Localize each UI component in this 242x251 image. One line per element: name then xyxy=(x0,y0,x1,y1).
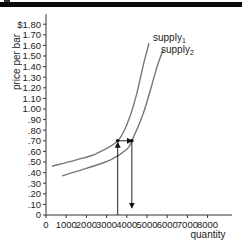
supply2-label: supply2 xyxy=(161,44,194,56)
y-tick-label: .30 xyxy=(28,178,41,189)
x-tick-label: 2000 xyxy=(76,219,97,230)
y-tick-label: 1.10 xyxy=(23,93,42,104)
y-tick-label: .80 xyxy=(28,125,41,136)
supply-curves xyxy=(52,43,163,176)
supply1-label: supply1 xyxy=(153,32,186,44)
x-tick-label: 5000 xyxy=(136,219,157,230)
y-axis-title: price per bar xyxy=(11,33,22,90)
point-marker xyxy=(116,139,120,143)
point-marker xyxy=(130,139,134,143)
y-tick-label: .40 xyxy=(28,167,41,178)
axes: 0.10.20.30.40.50.60.70.80.901.001.101.20… xyxy=(17,14,232,230)
y-tick-label: .10 xyxy=(28,199,41,210)
x-axis-title: quantity xyxy=(190,229,225,240)
y-tick-label: 1.40 xyxy=(23,61,42,72)
supply1-curve xyxy=(52,43,149,166)
y-tick-label: $1.80 xyxy=(17,19,41,30)
y-tick-label: 1.50 xyxy=(23,50,42,61)
supply-chart: 0.10.20.30.40.50.60.70.80.901.001.101.20… xyxy=(0,0,242,251)
y-tick-label: 1.70 xyxy=(23,29,42,40)
y-tick-label: 1.30 xyxy=(23,72,42,83)
x-tick-label: 6000 xyxy=(157,219,178,230)
x-tick-label: 0 xyxy=(43,219,48,230)
y-tick-label: .90 xyxy=(28,114,41,125)
y-tick-label: 1.60 xyxy=(23,40,42,51)
x-tick-label: 4000 xyxy=(116,219,137,230)
y-tick-label: .70 xyxy=(28,135,41,146)
y-tick-label: .50 xyxy=(28,156,41,167)
supply2-curve xyxy=(62,50,163,176)
x-tick-label: 1000 xyxy=(56,219,77,230)
y-tick-label: .20 xyxy=(28,188,41,199)
y-tick-label: .60 xyxy=(28,146,41,157)
y-tick-label: 1.20 xyxy=(23,82,42,93)
x-tick-label: 3000 xyxy=(96,219,117,230)
y-tick-label: 1.00 xyxy=(23,103,42,114)
y-tick-label: 0 xyxy=(36,209,41,220)
